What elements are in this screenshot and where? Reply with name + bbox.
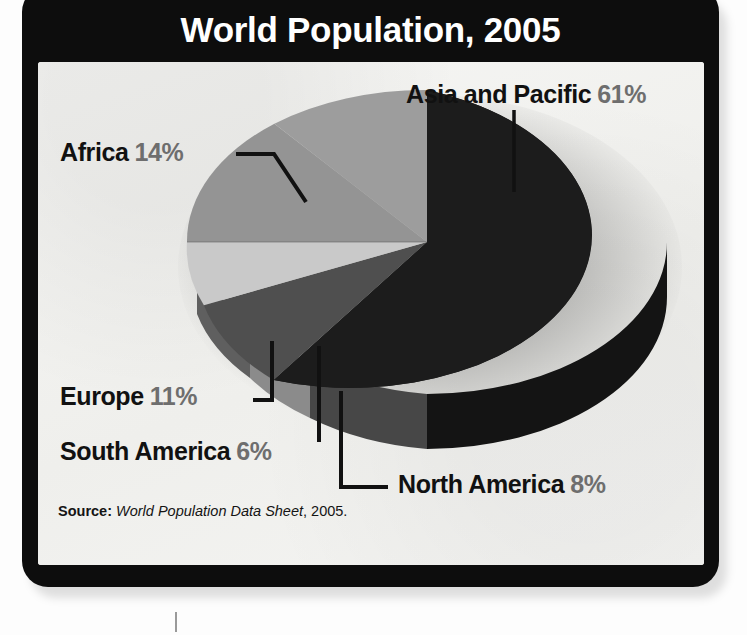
source-year: , 2005. bbox=[303, 503, 347, 519]
label-africa-pct: 14% bbox=[134, 138, 183, 166]
page-tick-mark bbox=[175, 612, 177, 632]
label-africa-name: Africa bbox=[60, 138, 128, 166]
label-south-america-name: South America bbox=[60, 437, 230, 465]
label-europe-name: Europe bbox=[60, 382, 144, 410]
label-north-america: North America8% bbox=[398, 470, 605, 499]
label-north-america-name: North America bbox=[398, 470, 564, 498]
source-label: Source: bbox=[58, 503, 112, 519]
label-north-america-pct: 8% bbox=[570, 470, 605, 498]
label-europe-pct: 11% bbox=[150, 382, 197, 410]
source-note: Source: World Population Data Sheet, 200… bbox=[58, 503, 347, 519]
label-south-america: South America6% bbox=[60, 437, 272, 466]
page-title: World Population, 2005 bbox=[22, 2, 719, 58]
chart-page: World Population, 2005 bbox=[0, 0, 747, 635]
label-africa: Africa14% bbox=[60, 138, 183, 167]
label-asia-pct: 61% bbox=[597, 80, 646, 108]
label-europe: Europe11% bbox=[60, 382, 197, 411]
chart-panel: Asia and Pacific61% Africa14% Europe11% … bbox=[38, 62, 704, 565]
label-asia-name: Asia and Pacific bbox=[406, 80, 591, 108]
source-publication: World Population Data Sheet bbox=[116, 503, 303, 519]
label-south-america-pct: 6% bbox=[236, 437, 271, 465]
label-asia-and-pacific: Asia and Pacific61% bbox=[406, 80, 646, 109]
